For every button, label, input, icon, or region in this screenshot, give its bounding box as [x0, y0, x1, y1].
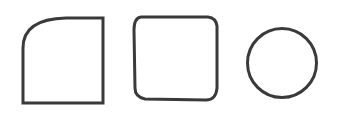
- shapes-canvas: [0, 0, 345, 126]
- shapes-figure: [0, 0, 345, 126]
- shape-rounded-square: [134, 17, 217, 100]
- shape-rounded-corner-square: [23, 18, 103, 103]
- shape-circle: [248, 29, 317, 98]
